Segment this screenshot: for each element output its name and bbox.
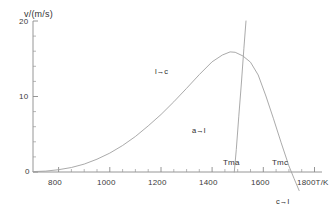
y-axis-major-ticks — [33, 21, 38, 172]
x-tick-label-1600: 1600 — [251, 178, 270, 187]
x-axis-end-label: 1800T/K — [297, 178, 329, 187]
x-tick-label-1000: 1000 — [97, 178, 116, 187]
y-tick-label-10: 10 — [19, 92, 28, 101]
x-tick-label-800: 800 — [48, 178, 62, 187]
y-axis-title: v/(m/s) — [24, 10, 53, 19]
annotation-c-to-l: c→l — [276, 197, 289, 206]
series-line-a-to-l — [234, 21, 246, 172]
y-tick-label-20: 20 — [19, 17, 28, 26]
marker-label-tma: Tma — [223, 158, 240, 167]
x-tick-label-1400: 1400 — [199, 178, 218, 187]
marker-label-tmc: Tmc — [272, 158, 288, 167]
annotation-l-to-c: l→c — [155, 67, 168, 76]
annotation-a-to-l: a→l — [192, 126, 206, 135]
x-tick-label-1200: 1200 — [148, 178, 167, 187]
y-tick-label-0: 0 — [25, 167, 30, 176]
chart-figure: v/(m/s) 20 10 0 800 1000 1200 1400 1600 … — [0, 0, 329, 215]
